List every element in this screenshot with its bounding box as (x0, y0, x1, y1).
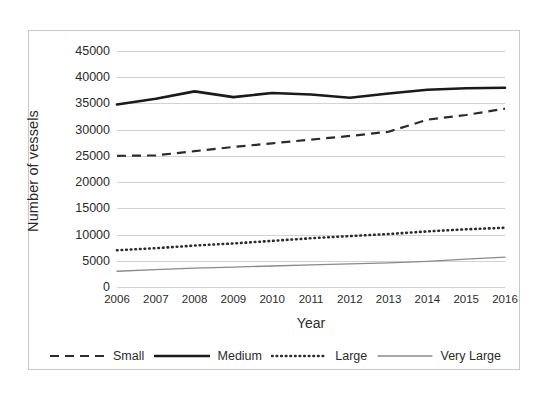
x-axis-tick-label: 2013 (376, 293, 402, 305)
y-axis-tick-label: 25000 (75, 149, 110, 163)
x-axis-tick-label: 2008 (182, 293, 208, 305)
legend-label: Medium (218, 349, 262, 363)
y-axis-tick-label: 40000 (75, 70, 110, 84)
x-axis-tick-label: 2010 (259, 293, 285, 305)
legend-item-medium[interactable]: Medium (154, 349, 262, 363)
x-axis-tick-label: 2006 (104, 293, 130, 305)
y-axis-tick-label: 0 (103, 280, 110, 294)
x-axis-tick-label: 2012 (337, 293, 363, 305)
x-axis-tick-label: 2016 (492, 293, 518, 305)
x-axis-ticks: 2006200720082009201020112012201320142015… (117, 293, 505, 311)
chart-legend: SmallMediumLargeVery Large (49, 343, 501, 369)
series-line-medium (117, 88, 505, 105)
dotted-line-icon (271, 350, 327, 362)
x-axis-title: Year (117, 315, 505, 331)
x-axis-tick-label: 2009 (221, 293, 247, 305)
dashed-line-icon (49, 350, 105, 362)
y-axis-tick-label: 30000 (75, 123, 110, 137)
legend-label: Large (335, 349, 367, 363)
x-axis-tick-label: 2011 (299, 293, 324, 305)
gridline (117, 287, 505, 288)
y-axis-title: Number of vessels (25, 0, 45, 71)
plot-area: 0500010000150002000025000300003500040000… (117, 51, 505, 287)
legend-item-large[interactable]: Large (271, 349, 367, 363)
x-axis-tick-label: 2015 (453, 293, 479, 305)
thick-solid-line-icon (154, 350, 210, 362)
x-axis-tick-label: 2007 (143, 293, 169, 305)
y-axis-tick-label: 20000 (75, 175, 110, 189)
x-axis-tick-label: 2014 (415, 293, 441, 305)
y-axis-tick-label: 15000 (75, 201, 110, 215)
y-axis-tick-label: 35000 (75, 96, 110, 110)
legend-item-very-large[interactable]: Very Large (377, 349, 501, 363)
legend-item-small[interactable]: Small (49, 349, 144, 363)
legend-label: Small (113, 349, 144, 363)
series-line-very-large (117, 257, 505, 271)
y-axis-tick-label: 10000 (75, 228, 110, 242)
series-line-large (117, 228, 505, 251)
series-lines (117, 51, 505, 287)
chart-figure: Number of vessels 0500010000150002000025… (28, 30, 520, 370)
y-axis-tick-label: 45000 (75, 44, 110, 58)
series-line-small (117, 109, 505, 156)
y-axis-tick-label: 5000 (82, 254, 110, 268)
y-axis-title-text: Number of vessels (25, 71, 41, 271)
legend-label: Very Large (441, 349, 501, 363)
thin-solid-line-icon (377, 350, 433, 362)
